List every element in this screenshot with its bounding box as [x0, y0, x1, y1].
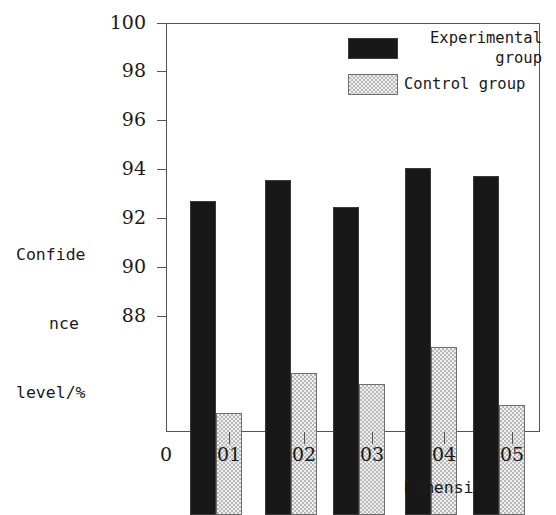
y-axis-title-line-3: level/%	[16, 381, 128, 404]
x-tick-label-05: 05	[492, 443, 532, 465]
y-tick-100	[157, 23, 166, 24]
x-tick-label-04: 04	[424, 443, 464, 465]
legend-swatch-control	[348, 74, 398, 95]
legend-item-control: Control group	[348, 74, 398, 95]
legend-label-experimental: Experimentalgroup	[404, 28, 542, 68]
legend-item-experimental: Experimentalgroup	[348, 32, 398, 59]
y-tick-96	[157, 120, 166, 121]
x-tick-label-01: 01	[209, 443, 249, 465]
x-tick-label-0: 0	[146, 443, 186, 465]
legend-label-control: Control group	[404, 74, 525, 94]
y-axis-title-line-1: Confide	[16, 243, 128, 266]
bar-experimental-01	[190, 201, 216, 515]
x-tick-label-02: 02	[284, 443, 324, 465]
y-tick-label-100: 100	[88, 13, 146, 32]
legend-swatch-experimental	[348, 38, 398, 59]
legend-label-experimental-line-2: group	[495, 49, 542, 67]
y-tick-88	[157, 316, 166, 317]
y-tick-94	[157, 169, 166, 170]
legend: Experimentalgroup Control group	[344, 30, 534, 86]
bar-experimental-03	[333, 207, 359, 515]
y-tick-98	[157, 71, 166, 72]
y-tick-label-98: 98	[88, 61, 146, 80]
x-axis-title: Dimension	[404, 478, 493, 498]
y-axis-title: Confide nce level/%	[16, 197, 128, 450]
x-tick-label-03: 03	[352, 443, 392, 465]
y-tick-label-94: 94	[88, 159, 146, 178]
y-tick-90	[157, 267, 166, 268]
y-tick-92	[157, 218, 166, 219]
legend-label-experimental-line-1: Experimental	[430, 29, 542, 47]
y-tick-label-96: 96	[88, 110, 146, 129]
y-axis-title-line-2: nce	[16, 312, 128, 335]
bar-chart: 100 98 96 94 92 90 88 Confide nce level/…	[0, 0, 556, 515]
